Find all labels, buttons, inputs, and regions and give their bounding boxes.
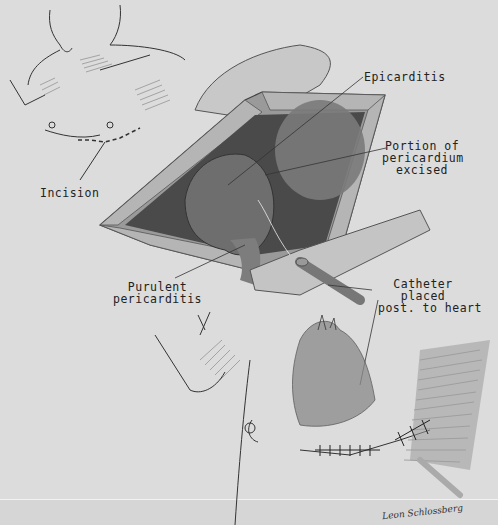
label-catheter-line3: post. to heart bbox=[378, 302, 468, 314]
pericardium-portion bbox=[275, 100, 365, 200]
label-pericardium-line3: excised bbox=[382, 164, 462, 176]
torso-sketch-bottom bbox=[155, 312, 430, 525]
label-epicarditis: Epicarditis bbox=[364, 71, 446, 83]
label-portion-of-pericardium: Portion of pericardium excised bbox=[382, 140, 462, 176]
label-purulent-line2: pericarditis bbox=[110, 293, 205, 305]
label-purulent-pericarditis: Purulent pericarditis bbox=[110, 281, 205, 305]
heart-drawing bbox=[293, 321, 376, 426]
label-catheter-placed: Catheter placed post. to heart bbox=[378, 278, 468, 314]
label-incision: Incision bbox=[40, 187, 99, 199]
